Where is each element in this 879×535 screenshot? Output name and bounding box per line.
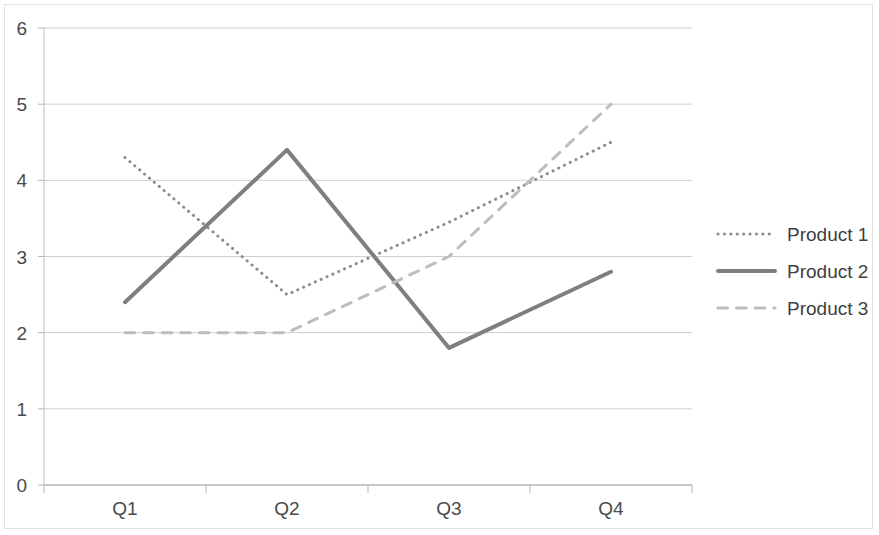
x-axis-tick-label: Q2 [274,498,299,519]
y-axis-tick-label: 0 [16,475,27,496]
series-line-1 [125,142,611,294]
x-axis-tick-labels: Q1Q2Q3Q4 [112,498,624,519]
y-axis-ticks [38,28,44,485]
x-axis-tick-label: Q1 [112,498,137,519]
y-axis-tick-label: 4 [16,170,27,191]
x-axis-tick-label: Q3 [436,498,461,519]
y-axis-tick-label: 3 [16,247,27,268]
chart-legend: Product 1Product 2Product 3 [718,224,868,319]
y-axis-tick-labels: 6543210 [16,18,27,496]
legend-label-1: Product 1 [787,224,868,245]
y-axis-tick-label: 6 [16,18,27,39]
chart-canvas: 6543210 Q1Q2Q3Q4 Product 1Product 2Produ… [0,0,879,535]
series-line-2 [125,150,611,348]
y-axis-tick-label: 1 [16,399,27,420]
x-axis-ticks [44,485,692,493]
data-series-group [125,104,611,348]
y-axis-tick-label: 2 [16,323,27,344]
legend-label-2: Product 2 [787,261,868,282]
legend-label-3: Product 3 [787,298,868,319]
y-axis-tick-label: 5 [16,94,27,115]
x-axis-tick-label: Q4 [598,498,624,519]
gridlines [44,28,692,485]
line-chart: 6543210 Q1Q2Q3Q4 Product 1Product 2Produ… [0,0,879,535]
